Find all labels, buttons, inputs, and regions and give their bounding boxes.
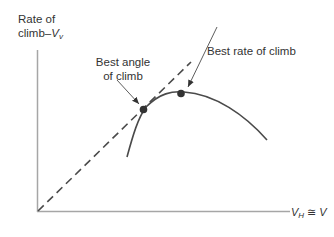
best-rate-label: Best rate of climb (207, 44, 296, 58)
best-angle-point (140, 106, 148, 114)
x-axis-label: VH ≅ V (291, 205, 327, 223)
rate-of-climb-curve (127, 92, 267, 157)
best-angle-label: Best angle of climb (90, 55, 156, 83)
best-angle-line1: Best angle (90, 55, 156, 69)
y-axis-label: Rate of climb–Vv (18, 12, 63, 44)
x-axis-var2: V (319, 206, 326, 218)
x-axis-approx: ≅ (304, 206, 319, 218)
y-axis-label-line2: climb–Vv (18, 26, 63, 44)
y-axis-label-text: climb– (18, 27, 51, 39)
y-axis-label-line1: Rate of (18, 12, 63, 26)
best-angle-line2: of climb (90, 69, 156, 83)
tangent-line (38, 62, 191, 211)
y-axis-var-sub: v (59, 32, 63, 41)
best-rate-point (177, 90, 185, 98)
best-angle-leader-arrow (117, 80, 139, 104)
y-axis-var: V (51, 27, 59, 39)
